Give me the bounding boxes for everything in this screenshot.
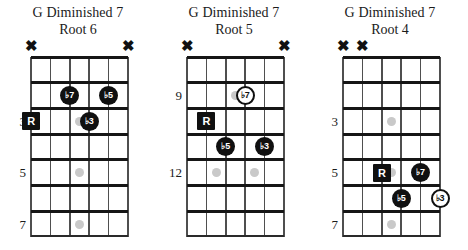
fret-line (31, 184, 128, 187)
fret-number-label: 5 (4, 166, 26, 179)
chord-tone-marker-interval: ♭5 (99, 86, 118, 105)
fret-number-label: 7 (316, 218, 338, 231)
muted-strings-row: ✖✖ (312, 38, 468, 54)
fret-number-label: 9 (160, 89, 182, 102)
muted-strings-row: ✖✖ (0, 38, 156, 54)
chord-tone-marker-root: R (197, 112, 215, 130)
fret-line (187, 107, 284, 110)
chord-root-label: Root 4 (312, 21, 468, 38)
fret-line (31, 107, 128, 110)
fret-line (343, 235, 440, 237)
chord-root-label: Root 6 (0, 21, 156, 38)
mute-x-icon: ✖ (355, 38, 369, 54)
chord-root-label: Root 5 (156, 21, 312, 38)
chord-diagram-root-4: G Diminished 7Root 4✖✖357R♭7♭5♭3 (312, 0, 468, 250)
chord-name: G Diminished 7 (156, 4, 312, 21)
chord-tone-marker-interval: ♭3 (80, 112, 99, 131)
mute-x-icon: ✖ (336, 38, 350, 54)
fretboard-grid (31, 57, 128, 237)
fret-number-label: 12 (160, 166, 182, 179)
chord-tone-marker-root: R (373, 164, 391, 182)
chord-name: G Diminished 7 (0, 4, 156, 21)
fret-line (343, 184, 440, 187)
fretboard-inlay-dot (387, 117, 396, 126)
fret-line (31, 81, 128, 84)
fret-line (343, 81, 440, 84)
fretboard-grid (343, 57, 440, 237)
chord-title-group: G Diminished 7Root 6 (0, 4, 156, 38)
muted-strings-row: ✖✖ (156, 38, 312, 54)
fret-line (187, 133, 284, 136)
fret-number-label: 5 (316, 166, 338, 179)
chord-tone-marker-root: R (22, 112, 40, 130)
chord-chart-sheet: G Diminished 7Root 6✖✖357R♭7♭5♭3G Dimini… (0, 0, 468, 250)
fret-number-label: 3 (316, 115, 338, 128)
fret-line (187, 184, 284, 187)
fret-line (31, 210, 128, 213)
fret-line (31, 133, 128, 136)
chord-diagram-root-6: G Diminished 7Root 6✖✖357R♭7♭5♭3 (0, 0, 156, 250)
chord-title-group: G Diminished 7Root 4 (312, 4, 468, 38)
fret-line (187, 81, 284, 84)
fretboard-inlay-dot (250, 168, 259, 177)
nut-line (343, 56, 440, 59)
chord-tone-marker-interval: ♭5 (392, 189, 411, 208)
chord-diagram-root-5: G Diminished 7Root 5✖✖912♭7R♭5♭3 (156, 0, 312, 250)
fret-number-label: 7 (4, 218, 26, 231)
fretboard-inlay-dot (387, 220, 396, 229)
fretboard-inlay-dot (75, 168, 84, 177)
mute-x-icon: ✖ (121, 38, 135, 54)
mute-x-icon: ✖ (277, 38, 291, 54)
fret-line (31, 158, 128, 161)
fret-line (343, 107, 440, 110)
fret-line (187, 210, 284, 213)
nut-line (31, 56, 128, 59)
fret-line (343, 133, 440, 136)
chord-name: G Diminished 7 (312, 4, 468, 21)
mute-x-icon: ✖ (24, 38, 38, 54)
fret-line (343, 210, 440, 213)
chord-title-group: G Diminished 7Root 5 (156, 4, 312, 38)
chord-tone-marker-interval: ♭3 (431, 189, 450, 208)
mute-x-icon: ✖ (180, 38, 194, 54)
fret-line (343, 158, 440, 161)
chord-tone-marker-interval: ♭7 (236, 86, 255, 105)
fret-line (31, 235, 128, 237)
fret-line (187, 158, 284, 161)
fretboard-inlay-dot (212, 168, 221, 177)
fret-line (187, 235, 284, 237)
fretboard-inlay-dot (75, 220, 84, 229)
nut-line (187, 56, 284, 59)
